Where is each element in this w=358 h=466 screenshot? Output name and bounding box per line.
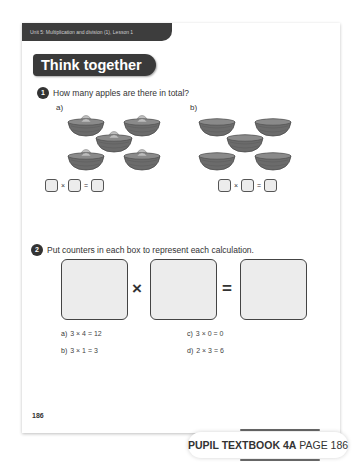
- multiply-sign: ×: [233, 182, 239, 189]
- answer-box[interactable]: [241, 179, 254, 192]
- section-title: Think together: [33, 54, 156, 76]
- equals-sign: =: [222, 279, 232, 299]
- bowl-with-apple-icon: [67, 149, 105, 171]
- calculation-b: b)3 × 1 = 3: [61, 347, 98, 354]
- footer-divider: [240, 459, 320, 461]
- answer-box[interactable]: [218, 179, 231, 192]
- page-number: 186: [32, 412, 44, 419]
- answer-box[interactable]: [68, 179, 81, 192]
- empty-bowl-icon: [198, 149, 236, 171]
- question-number-1: 1: [37, 87, 49, 99]
- counter-box-2[interactable]: [150, 259, 217, 320]
- answer-box[interactable]: [91, 179, 104, 192]
- equation-b: × =: [218, 179, 277, 192]
- page-footer: PUPIL TEXTBOOK 4A PAGE 186: [188, 432, 348, 458]
- textbook-page: Unit 5: Multiplication and division (1),…: [22, 23, 340, 433]
- part-a-label: a): [56, 103, 63, 112]
- question-1-prompt: How many apples are there in total?: [53, 88, 189, 98]
- answer-box[interactable]: [45, 179, 58, 192]
- bowl-with-apple-icon: [123, 149, 161, 171]
- question-2-prompt: Put counters in each box to represent ea…: [47, 245, 254, 255]
- question-number-2: 2: [31, 244, 43, 256]
- multiply-sign: ×: [60, 182, 66, 189]
- footer-page: PAGE 186: [299, 439, 348, 451]
- answer-box[interactable]: [264, 179, 277, 192]
- equals-sign: =: [83, 182, 89, 189]
- book-title: PUPIL TEXTBOOK 4A: [188, 439, 296, 451]
- empty-bowl-icon: [254, 149, 292, 171]
- footer-divider: [240, 429, 320, 431]
- calculation-d: d)2 × 3 = 6: [187, 347, 224, 354]
- multiply-sign: ×: [132, 279, 142, 299]
- calculation-c: c)3 × 0 = 0: [187, 330, 223, 337]
- part-b-label: b): [190, 103, 197, 112]
- calculation-a: a)3 × 4 = 12: [61, 330, 102, 337]
- counter-box-1[interactable]: [61, 259, 128, 320]
- equals-sign: =: [256, 182, 262, 189]
- counter-box-3[interactable]: [240, 259, 307, 320]
- equation-a: × =: [45, 179, 104, 192]
- unit-header: Unit 5: Multiplication and division (1),…: [22, 23, 172, 41]
